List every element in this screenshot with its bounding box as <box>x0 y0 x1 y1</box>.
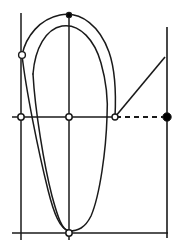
marker-origin-left <box>18 114 24 120</box>
marker-left-curve-endpoint <box>19 52 26 59</box>
diagram-figure <box>0 0 178 251</box>
marker-right-solid-dot <box>163 113 171 121</box>
marker-top-peak <box>66 12 71 17</box>
marker-curve-axis-intersection <box>112 114 118 120</box>
marker-origin-center <box>66 114 72 120</box>
diagram-canvas <box>0 0 178 251</box>
marker-bottom-vertex <box>66 230 72 236</box>
